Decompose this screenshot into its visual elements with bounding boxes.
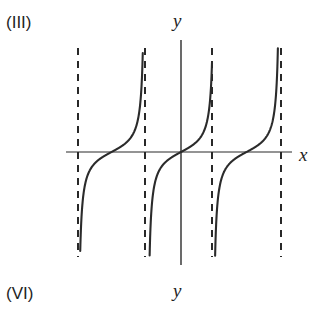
curve-group <box>80 48 278 256</box>
figure-container: (III) (VI) y x y <box>0 0 320 311</box>
function-plot <box>0 0 320 311</box>
